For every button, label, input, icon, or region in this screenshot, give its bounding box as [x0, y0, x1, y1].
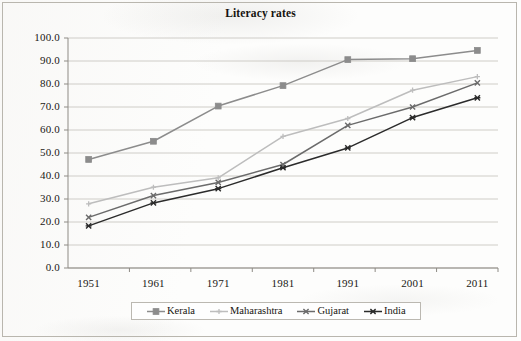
x-tick-label: 2011 [447, 277, 507, 289]
y-tick-label: 80.0 [12, 77, 60, 89]
data-point-marker [475, 74, 480, 79]
legend-label: India [384, 306, 406, 317]
data-point-marker [410, 115, 416, 120]
data-point-marker [370, 308, 376, 313]
legend-marker-asterisk-icon [363, 306, 383, 317]
data-point-marker [151, 185, 156, 190]
data-point-marker [86, 201, 91, 206]
legend-item-kerala[interactable]: Kerala [146, 306, 195, 317]
y-tick-label: 90.0 [12, 54, 60, 66]
data-point-marker [86, 157, 92, 163]
data-point-marker [150, 200, 156, 205]
gridlines [68, 38, 498, 268]
data-point-marker [345, 145, 351, 150]
data-point-marker [280, 83, 286, 89]
data-point-marker [151, 138, 157, 144]
series-kerala [86, 48, 481, 163]
legend-label: Gujarat [317, 306, 349, 317]
series-line [89, 77, 478, 204]
data-point-marker [474, 95, 480, 100]
x-tick-label: 1971 [188, 277, 248, 289]
data-point-marker [153, 308, 159, 314]
series-maharashtra [86, 74, 480, 206]
x-tick-label: 1981 [253, 277, 313, 289]
legend-label: Kerala [167, 306, 195, 317]
legend-marker-plus-icon [209, 306, 229, 317]
data-point-marker [410, 88, 415, 93]
data-point-marker [216, 308, 221, 313]
data-point-marker [86, 223, 92, 228]
data-point-marker [474, 48, 480, 54]
x-tick-label: 1991 [318, 277, 378, 289]
series-india [86, 95, 481, 228]
y-tick-label: 50.0 [12, 146, 60, 158]
y-tick-label: 20.0 [12, 215, 60, 227]
axis-lines [64, 38, 498, 272]
y-tick-label: 100.0 [12, 31, 60, 43]
plot-area [0, 0, 521, 341]
data-point-marker [345, 57, 351, 63]
x-tick-label: 1951 [59, 277, 119, 289]
data-point-marker [345, 116, 350, 121]
data-point-marker [215, 103, 221, 109]
data-point-marker [410, 56, 416, 62]
legend-item-india[interactable]: India [363, 306, 406, 317]
data-point-marker [280, 165, 286, 170]
legend-item-gujarat[interactable]: Gujarat [296, 306, 349, 317]
series-line [89, 98, 478, 226]
legend-label: Maharashtra [230, 306, 282, 317]
legend-item-maharashtra[interactable]: Maharashtra [209, 306, 282, 317]
data-point-marker [215, 186, 221, 191]
y-tick-label: 60.0 [12, 123, 60, 135]
y-tick-label: 30.0 [12, 192, 60, 204]
x-tick-label: 2001 [383, 277, 443, 289]
y-tick-label: 10.0 [12, 238, 60, 250]
y-tick-label: 70.0 [12, 100, 60, 112]
legend-marker-square-icon [146, 306, 166, 317]
legend-marker-cross-icon [296, 306, 316, 317]
x-tick-label: 1961 [123, 277, 183, 289]
series-line [89, 83, 478, 218]
chart-container: Literacy rates 0.010.020.030.040.050.060… [0, 0, 521, 341]
y-tick-label: 40.0 [12, 169, 60, 181]
chart-legend: KeralaMaharashtraGujaratIndia [131, 302, 421, 320]
y-tick-label: 0.0 [12, 261, 60, 273]
